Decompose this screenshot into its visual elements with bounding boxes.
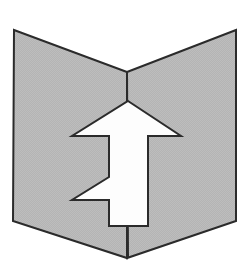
figure-canvas (0, 0, 248, 271)
arrow-book-figure (0, 0, 248, 271)
